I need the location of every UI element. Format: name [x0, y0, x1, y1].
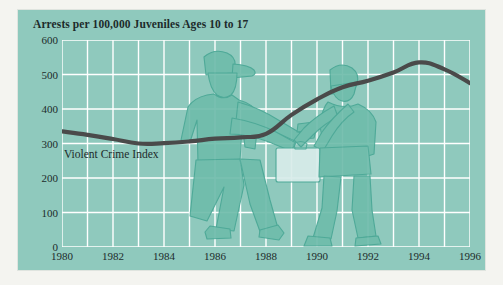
chart-figure: Arrests per 100,000 Juveniles Ages 10 to…	[0, 0, 503, 285]
series-inline-label: Violent Crime Index	[64, 148, 158, 160]
x-tick-label: 1982	[102, 250, 124, 262]
x-tick-label: 1988	[255, 250, 277, 262]
x-tick-label: 1984	[153, 250, 175, 262]
y-tick-label: 100	[42, 207, 59, 219]
y-axis-labels: 0100200300400500600	[20, 40, 58, 247]
y-tick-label: 400	[42, 103, 59, 115]
plot-area	[62, 40, 470, 247]
x-tick-label: 1986	[204, 250, 226, 262]
x-tick-label: 1994	[408, 250, 430, 262]
y-tick-label: 500	[42, 69, 59, 81]
y-tick-label: 200	[42, 172, 59, 184]
x-tick-label: 1996	[459, 250, 481, 262]
x-tick-label: 1992	[357, 250, 379, 262]
violent-crime-index-line	[62, 40, 470, 247]
x-tick-label: 1980	[51, 250, 73, 262]
y-tick-label: 600	[42, 34, 59, 46]
x-axis-labels: 198019821984198619881990199219941996	[62, 250, 470, 266]
x-tick-label: 1990	[306, 250, 328, 262]
chart-title: Arrests per 100,000 Juveniles Ages 10 to…	[33, 18, 248, 30]
y-tick-label: 300	[42, 138, 59, 150]
